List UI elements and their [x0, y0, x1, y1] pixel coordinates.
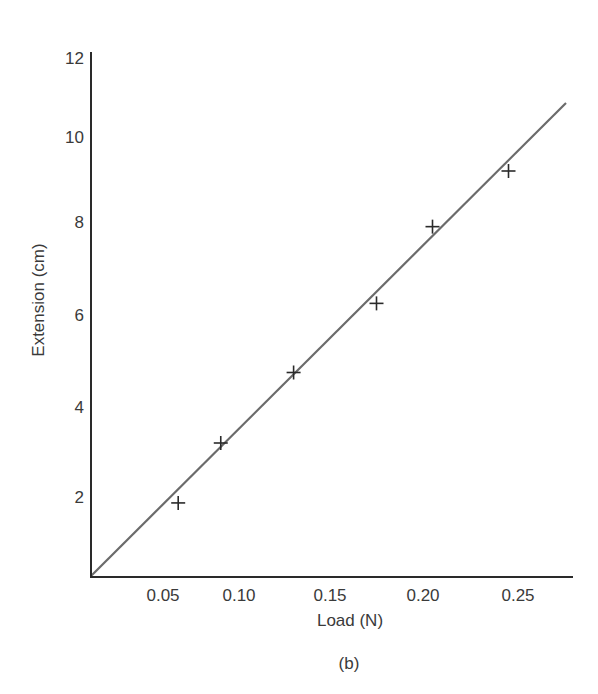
chart: 0.050.100.150.200.25 24681012 Load (N) E… — [0, 0, 598, 694]
fit-line — [91, 103, 566, 576]
x-tick-label: 0.05 — [146, 586, 179, 605]
y-tick-label: 6 — [75, 306, 84, 325]
figure-caption: (b) — [339, 654, 360, 673]
x-tick-labels: 0.050.100.150.200.25 — [146, 586, 534, 605]
plus-marker — [287, 366, 301, 380]
x-axis-title: Load (N) — [317, 611, 383, 630]
y-tick-label: 8 — [75, 213, 84, 232]
plus-marker — [370, 296, 384, 310]
x-tick-label: 0.10 — [222, 586, 255, 605]
y-tick-labels: 24681012 — [65, 49, 84, 507]
plus-marker — [171, 496, 185, 510]
x-tick-label: 0.20 — [406, 586, 439, 605]
y-axis-title: Extension (cm) — [29, 243, 48, 356]
y-tick-label: 2 — [75, 488, 84, 507]
plus-marker — [214, 436, 228, 450]
y-tick-label: 4 — [75, 398, 84, 417]
x-tick-label: 0.25 — [501, 586, 534, 605]
y-tick-label: 10 — [65, 128, 84, 147]
best-fit-line — [91, 103, 566, 576]
data-points — [171, 164, 515, 510]
y-tick-label: 12 — [65, 49, 84, 68]
x-tick-label: 0.15 — [313, 586, 346, 605]
